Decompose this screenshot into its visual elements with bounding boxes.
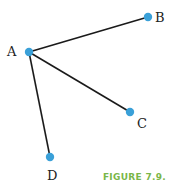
node-d <box>46 153 54 161</box>
edges <box>29 17 148 157</box>
node-label-b: B <box>155 10 165 25</box>
edge-a-c <box>29 52 130 112</box>
edge-a-d <box>29 52 50 157</box>
graph-diagram: A B C D <box>0 0 172 190</box>
node-label-d: D <box>47 168 57 183</box>
node-label-a: A <box>6 44 17 59</box>
figure-caption: FIGURE 7.9. <box>103 172 166 182</box>
node-b <box>144 13 152 21</box>
node-a <box>25 48 33 56</box>
node-label-c: C <box>137 116 147 131</box>
node-c <box>126 108 134 116</box>
edge-a-b <box>29 17 148 52</box>
